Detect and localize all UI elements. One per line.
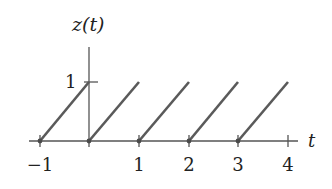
x-tick-label-1: 1 <box>133 154 144 175</box>
x-tick-label-3: 3 <box>232 154 243 175</box>
x-tick-label-m1: −1 <box>27 154 54 175</box>
sawtooth-series <box>40 82 288 141</box>
x-tick-label-4: 4 <box>282 154 293 175</box>
y-axis-label: z(t) <box>71 13 104 35</box>
x-axis-label: t <box>308 130 316 151</box>
sawtooth-chart: z(t) t 1 −1 1 2 3 4 <box>0 0 332 189</box>
x-tick-label-2: 2 <box>183 154 194 175</box>
y-tick-label-1: 1 <box>65 71 76 92</box>
